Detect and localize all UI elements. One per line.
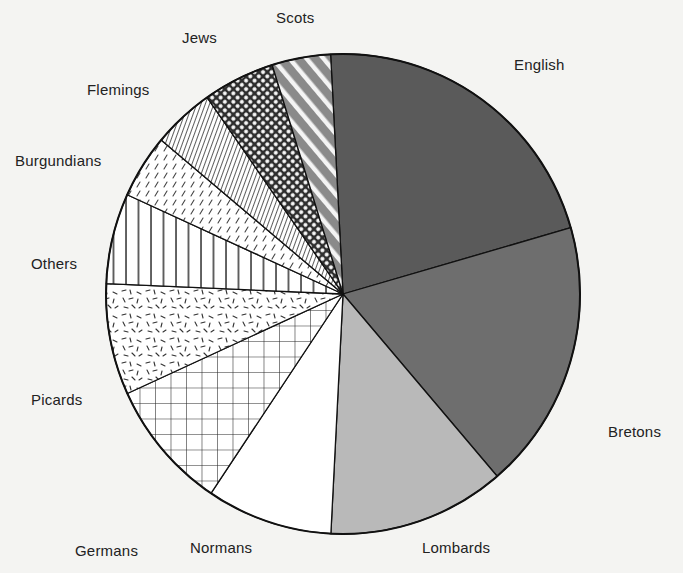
label-others: Others [31,255,77,272]
label-flemings: Flemings [87,81,149,98]
label-picards: Picards [31,391,82,408]
label-normans: Normans [190,539,252,556]
label-burgundians: Burgundians [15,152,101,169]
pie-slices [106,54,580,534]
pie-chart: English Bretons Lombards Normans Germans… [0,0,683,573]
label-germans: Germans [75,542,138,559]
label-jews: Jews [182,29,217,46]
label-scots: Scots [276,9,315,26]
label-lombards: Lombards [422,539,490,556]
label-bretons: Bretons [608,423,661,440]
label-english: English [514,56,565,73]
